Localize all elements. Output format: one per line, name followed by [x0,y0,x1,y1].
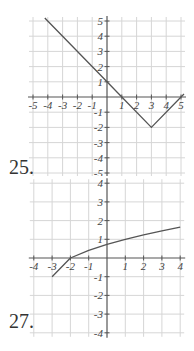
y-tick-label: -1 [94,271,103,283]
y-tick-label: -3 [94,308,104,320]
y-tick-label: 3 [97,196,104,208]
problem-number: 27. [9,311,34,331]
y-tick-label: -4 [94,152,104,164]
y-tick-label: -3 [94,137,104,149]
y-tick-label: -1 [94,106,103,118]
x-tick-label: -3 [58,99,68,111]
graph-25: -5-4-3-2-11234554321-1-2-3-4-5 [0,0,194,176]
problem-25: -5-4-3-2-11234554321-1-2-3-4-5 25. [0,0,194,176]
x-tick-label: 4 [177,260,183,272]
x-tick-label: -4 [43,99,53,111]
y-tick-label: -5 [94,167,104,176]
y-tick-label: -2 [94,289,104,301]
y-tick-label: 3 [97,45,104,57]
y-tick-label: 1 [98,233,104,245]
y-tick-label: 2 [98,61,104,73]
x-tick-label: 5 [178,99,184,111]
y-tick-label: -4 [94,327,104,339]
y-tick-label: 2 [98,215,104,227]
x-tick-label: 2 [134,99,140,111]
x-tick-label: 3 [148,99,155,111]
x-tick-label: 1 [123,260,129,272]
problem-27: -4-3-2-112344321-1-2-3-4 27. [0,176,194,351]
y-tick-label: 4 [98,177,104,189]
axes: -5-4-3-2-11234554321-1-2-3-4-5 [28,15,186,176]
x-tick-label: 3 [158,260,165,272]
x-tick-label: -3 [48,260,58,272]
x-tick-label: 2 [141,260,147,272]
x-tick-label: -1 [84,260,93,272]
problem-number: 25. [9,157,34,177]
x-tick-label: -4 [29,260,39,272]
x-tick-label: -2 [73,99,83,111]
x-tick-label: -5 [28,99,38,111]
y-tick-label: -2 [94,121,104,133]
y-tick-label: 5 [98,15,104,27]
y-tick-label: 4 [98,30,104,42]
x-tick-label: 1 [119,99,125,111]
